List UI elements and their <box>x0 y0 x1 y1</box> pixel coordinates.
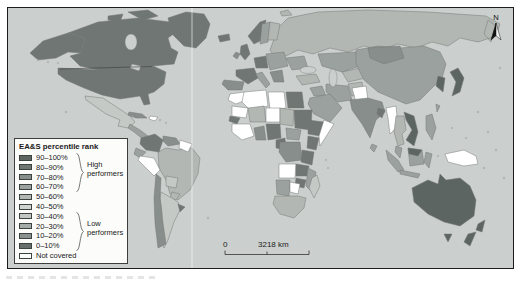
low-performers-label: Low performers <box>87 220 129 237</box>
north-indicator: N <box>486 13 506 42</box>
high-performers-label: High performers <box>87 161 129 178</box>
legend-swatch <box>19 233 32 239</box>
legend-label: 40–50% <box>36 203 64 211</box>
legend-swatch <box>19 204 32 210</box>
region-germany <box>254 56 268 68</box>
region-zambia <box>296 164 309 176</box>
caption-remnant <box>6 276 156 279</box>
legend-swatch <box>19 155 32 161</box>
legend-label: 20–30% <box>36 223 64 231</box>
legend-label: 90–100% <box>36 154 68 162</box>
legend-label: 80–90% <box>36 164 64 172</box>
high-performers-brace <box>76 153 85 192</box>
region-mali <box>248 106 266 122</box>
region-nigeria <box>266 124 281 140</box>
legend-title: EA&S percentile rank <box>19 143 127 151</box>
legend-label: Not covered <box>36 252 76 260</box>
region-libya <box>268 92 286 110</box>
legend-swatch <box>19 174 32 180</box>
region-bolivia <box>166 176 178 188</box>
legend-swatch <box>19 184 32 190</box>
legend-swatch <box>19 223 32 229</box>
legend-label: 0–10% <box>36 242 59 250</box>
region-ghana <box>254 126 266 140</box>
legend-label: 60–70% <box>36 183 64 191</box>
legend-label: 50–60% <box>36 193 64 201</box>
legend-swatch <box>19 194 32 200</box>
legend-label: 70–80% <box>36 174 64 182</box>
region-egypt <box>286 92 304 108</box>
legend-item: 40–50% <box>19 202 127 212</box>
scale-bar-line <box>222 250 314 256</box>
legend-item: Not covered <box>19 251 127 261</box>
legend-item: 60–70% <box>19 182 127 192</box>
legend-label: 10–20% <box>36 232 64 240</box>
legend-item: 50–60% <box>19 192 127 202</box>
region-botswana <box>290 182 300 194</box>
legend-swatch <box>19 164 32 170</box>
scale-bar: 0 3218 km <box>222 240 332 256</box>
legend-label: 30–40% <box>36 213 64 221</box>
region-mauritania <box>232 106 248 118</box>
map-figure-panel: EA&S percentile rank 90–100%80–90%70–80%… <box>7 7 514 269</box>
legend-swatch <box>19 243 32 249</box>
scale-zero-label: 0 <box>223 240 227 249</box>
legend-item: 0–10% <box>19 241 127 251</box>
scale-distance-label: 3218 km <box>258 240 289 249</box>
region-car <box>286 128 301 140</box>
map-legend: EA&S percentile rank 90–100%80–90%70–80%… <box>14 138 128 264</box>
north-arrow-icon <box>490 22 502 42</box>
legend-swatch <box>19 213 32 219</box>
region-niger <box>266 108 280 122</box>
region-namibia <box>276 180 290 196</box>
north-label: N <box>493 13 498 22</box>
region-tanzania <box>301 150 314 165</box>
region-chad <box>280 108 294 126</box>
legend-swatch <box>19 253 32 259</box>
low-performers-brace <box>76 212 85 251</box>
region-angola <box>279 164 296 178</box>
